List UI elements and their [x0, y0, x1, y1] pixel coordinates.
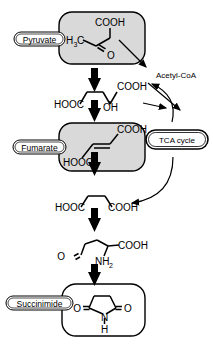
arrow-malate-to-tca: [143, 103, 166, 108]
tca-cycle-label: TCA cycle: [159, 136, 196, 145]
block-arrow-aminoacid-to-succinate: [88, 208, 101, 232]
fumarate-label: Fumarate: [21, 143, 58, 153]
succinimide-n-label: N: [101, 312, 108, 323]
succinimide-h-label: H: [101, 324, 108, 335]
succinimide-label: Succinimide: [17, 299, 63, 309]
block-arrow-malate-to-pyruvate: [88, 68, 101, 92]
pyruvate-c-label: C: [77, 35, 84, 46]
succinate-cooh-label: COOH: [108, 202, 138, 213]
pathway-diagram: Pyruvate Fumarate Succinimide TCA cycle …: [0, 0, 213, 345]
aminoacid-nh2-sub: 2: [109, 262, 113, 269]
pyruvate-h-label: H: [66, 35, 73, 46]
malate-cooh-label: COOH: [117, 81, 147, 92]
malate-hooc-label: HOOC: [54, 99, 84, 110]
fumarate-cooh-label: COOH: [117, 124, 147, 135]
aminoacid-atom-labels: O NH 2 COOH: [57, 240, 148, 269]
arrow-acetylcoa-to-tca: [148, 83, 180, 110]
succinimide-o-right-label: O: [124, 303, 132, 314]
pyruvate-label: Pyruvate: [23, 35, 57, 45]
aminoacid-o-label: O: [57, 251, 65, 262]
acetyl-coa-label: Acetyl-CoA: [156, 71, 197, 80]
aminoacid-cooh-label: COOH: [118, 240, 148, 251]
pyruvate-o-label: O: [107, 50, 115, 61]
pyruvate-cooh-label: COOH: [95, 17, 125, 28]
block-arrow-fumarate-to-malate: [88, 100, 101, 122]
aminoacid-nh-label: NH: [95, 256, 109, 267]
succinimide-o-left-label: O: [73, 303, 81, 314]
malate-oh-label: OH: [103, 102, 118, 113]
fumarate-hooc-label: HOOC: [63, 157, 93, 168]
block-arrow-succinimide-to-aminoacid: [88, 264, 101, 286]
succinate-hooc-label: HOOC: [55, 202, 85, 213]
diagram-canvas: Pyruvate Fumarate Succinimide TCA cycle …: [0, 0, 213, 345]
